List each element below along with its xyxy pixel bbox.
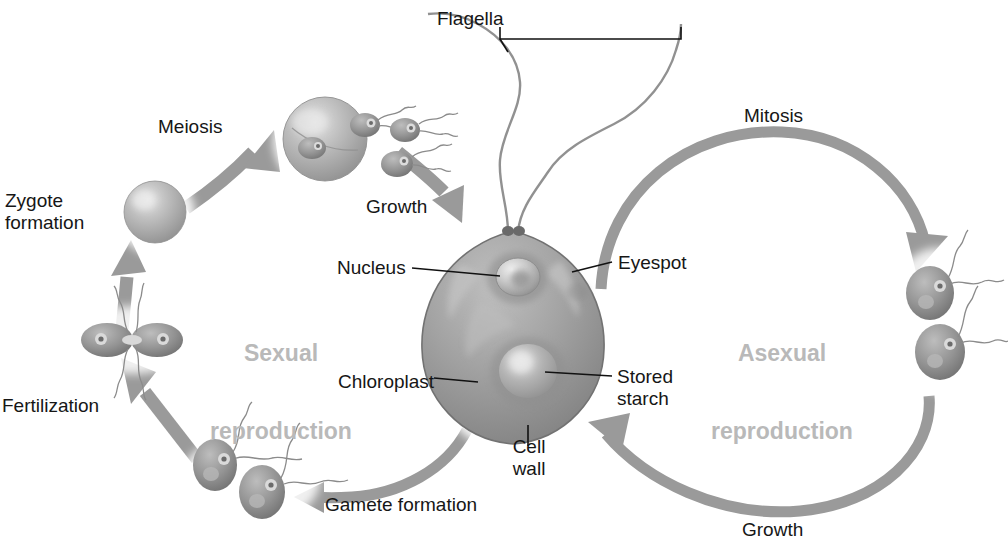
daughter-cell-pair	[886, 230, 1008, 392]
label-growth-top: Growth	[366, 196, 427, 218]
cycle-label-sexual-line1: Sexual	[196, 340, 366, 366]
free-cell-c	[390, 113, 458, 142]
label-eyespot: Eyespot	[618, 252, 687, 274]
label-mitosis: Mitosis	[744, 105, 803, 127]
label-growth-bottom: Growth	[742, 519, 803, 541]
eyespot-body	[567, 283, 589, 301]
label-meiosis: Meiosis	[158, 116, 222, 138]
flagella-strands	[428, 13, 681, 232]
cycle-label-asexual-line2: reproduction	[692, 418, 872, 444]
label-fertilization: Fertilization	[2, 395, 99, 417]
label-gamete-formation: Gamete formation	[325, 494, 477, 516]
zygote-sphere	[115, 174, 195, 254]
label-zygote-formation: Zygote formation	[5, 190, 84, 234]
label-cell-wall: Cell wall	[505, 436, 553, 480]
meiosis-arrow	[186, 130, 280, 208]
cycle-label-sexual-line2: reproduction	[196, 418, 366, 444]
label-stored-starch: Stored starch	[617, 366, 673, 410]
escaping-cell-a	[298, 137, 326, 159]
flagella-bracket	[500, 27, 681, 52]
cycle-label-asexual: Asexual reproduction	[692, 288, 872, 470]
label-flagella: Flagella	[437, 8, 504, 30]
vegetative-cell	[422, 226, 604, 453]
label-nucleus: Nucleus	[337, 257, 406, 279]
cycle-label-asexual-line1: Asexual	[692, 340, 872, 366]
life-cycle-diagram: Sexual reproduction Asexual reproduction…	[0, 0, 1008, 548]
nucleus-body	[487, 252, 547, 304]
label-chloroplast: Chloroplast	[338, 371, 434, 393]
